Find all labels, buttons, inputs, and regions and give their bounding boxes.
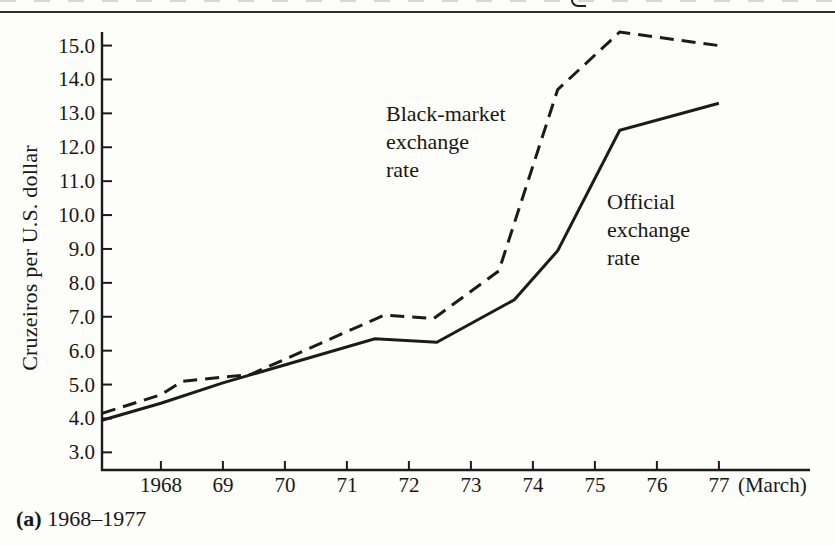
- y-tick-label: 3.0: [69, 440, 95, 464]
- chart-canvas: 15.014.013.012.011.010.09.08.07.06.05.04…: [0, 0, 835, 545]
- y-tick-label: 12.0: [58, 135, 95, 159]
- x-tick-label: 70: [274, 473, 295, 497]
- black-market-series-label: Black-market exchange rate: [386, 100, 506, 184]
- x-tick-label: 69: [212, 473, 233, 497]
- y-axis-title: Cruzeiros per U.S. dollar: [17, 145, 43, 371]
- exchange-rate-figure: 15.014.013.012.011.010.09.08.07.06.05.04…: [0, 0, 835, 545]
- x-tick-label: 72: [398, 473, 419, 497]
- y-tick-label: 11.0: [59, 169, 95, 193]
- x-tick-label: 77: [708, 473, 729, 497]
- caption-year-range: 1968–1977: [42, 506, 147, 531]
- y-tick-label: 14.0: [58, 67, 95, 91]
- y-tick-label: 4.0: [69, 406, 95, 430]
- y-tick-label: 5.0: [69, 373, 95, 397]
- x-tick-label: 1968: [140, 473, 182, 497]
- y-tick-label: 7.0: [69, 305, 95, 329]
- x-tick-label: 75: [584, 473, 605, 497]
- x-axis-note: (March): [738, 473, 807, 497]
- y-tick-label: 8.0: [69, 271, 95, 295]
- y-tick-label: 10.0: [58, 203, 95, 227]
- caption-panel-letter: (a): [16, 506, 42, 531]
- book-page: 15.014.013.012.011.010.09.08.07.06.05.04…: [0, 0, 835, 545]
- y-tick-label: 6.0: [69, 339, 95, 363]
- y-tick-label: 13.0: [58, 101, 95, 125]
- y-tick-label: 15.0: [58, 34, 95, 58]
- axes-lines: [102, 32, 810, 470]
- y-tick-label: 9.0: [69, 237, 95, 261]
- official-series-label: Official exchange rate: [607, 188, 690, 272]
- x-tick-label: 76: [646, 473, 667, 497]
- figure-caption: (a) 1968–1977: [16, 506, 146, 532]
- x-tick-label: 71: [336, 473, 357, 497]
- x-tick-label: 74: [522, 473, 544, 497]
- x-tick-label: 73: [460, 473, 481, 497]
